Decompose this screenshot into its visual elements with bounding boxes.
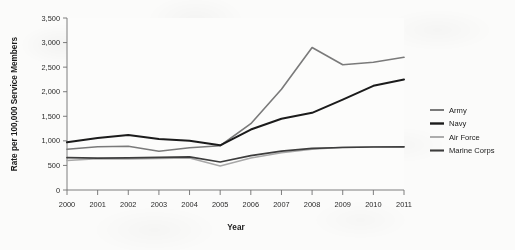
plot-area-background bbox=[67, 18, 404, 190]
y-axis-ticks bbox=[63, 18, 67, 190]
legend-label-marine-corps: Marine Corps bbox=[449, 146, 495, 155]
x-axis-ticks bbox=[67, 190, 404, 195]
y-tick-label: 1,500 bbox=[42, 112, 61, 121]
y-tick-label: 2,500 bbox=[42, 63, 61, 72]
chart-page: 05001,0001,5002,0002,5003,0003,500 20002… bbox=[0, 0, 515, 250]
x-tick-label: 2007 bbox=[273, 200, 289, 209]
x-tick-label: 2000 bbox=[59, 200, 75, 209]
x-tick-label: 2003 bbox=[151, 200, 167, 209]
x-axis-title: Year bbox=[227, 223, 245, 232]
x-axis-tick-labels: 2000200120022003200420052006200720082009… bbox=[59, 200, 412, 209]
y-tick-label: 1,000 bbox=[42, 136, 61, 145]
legend-label-navy: Navy bbox=[449, 119, 467, 128]
x-tick-label: 2002 bbox=[120, 200, 136, 209]
x-tick-label: 2006 bbox=[243, 200, 259, 209]
x-tick-label: 2004 bbox=[181, 200, 197, 209]
y-tick-label: 2,000 bbox=[42, 87, 61, 96]
x-tick-label: 2009 bbox=[335, 200, 351, 209]
y-tick-label: 3,000 bbox=[42, 38, 61, 47]
x-tick-label: 2010 bbox=[365, 200, 381, 209]
line-chart: 05001,0001,5002,0002,5003,0003,500 20002… bbox=[0, 0, 515, 250]
y-tick-label: 3,500 bbox=[42, 14, 61, 23]
y-axis-title: Rate per 100,000 Service Members bbox=[10, 36, 19, 171]
x-tick-label: 2001 bbox=[89, 200, 105, 209]
legend-label-air-force: Air Force bbox=[449, 133, 480, 142]
y-tick-label: 500 bbox=[48, 161, 60, 170]
y-axis-tick-labels: 05001,0001,5002,0002,5003,0003,500 bbox=[42, 14, 61, 195]
x-tick-label: 2008 bbox=[304, 200, 320, 209]
y-tick-label: 0 bbox=[56, 186, 60, 195]
x-tick-label: 2005 bbox=[212, 200, 228, 209]
legend-label-army: Army bbox=[449, 106, 467, 115]
x-tick-label: 2011 bbox=[396, 200, 412, 209]
chart-legend: ArmyNavyAir ForceMarine Corps bbox=[430, 106, 495, 156]
